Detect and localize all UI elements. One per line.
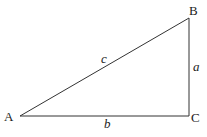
- side-c-hypotenuse: [20, 18, 189, 116]
- side-label-b: b: [104, 116, 111, 131]
- vertex-label-c: C: [191, 110, 200, 125]
- vertex-label-a: A: [4, 109, 14, 124]
- vertex-label-b: B: [189, 3, 198, 18]
- right-triangle-diagram: A B C c a b: [0, 0, 207, 137]
- side-label-c: c: [101, 51, 107, 66]
- side-label-a: a: [193, 59, 200, 74]
